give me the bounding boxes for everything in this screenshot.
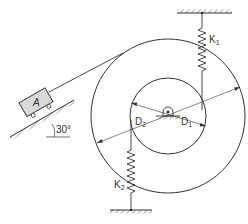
angle-label: 30°: [56, 124, 71, 135]
block-a-label: A: [32, 97, 40, 108]
pivot-support: [156, 107, 180, 120]
ground-support-k2: [110, 209, 152, 214]
diagram-canvas: A 30° K1 K2 D1 D2: [0, 0, 248, 224]
diagram-svg: A 30° K1 K2 D1 D2: [0, 0, 248, 224]
spring-k1: [198, 13, 206, 110]
outer-diameter-dimension: [97, 87, 240, 143]
ceiling-support-k1: [177, 10, 232, 15]
d1-label: D1: [181, 116, 192, 128]
d2-label: D2: [135, 116, 146, 128]
k1-label: K1: [209, 34, 220, 46]
cable: [49, 53, 123, 92]
k2-label: K2: [114, 179, 125, 191]
